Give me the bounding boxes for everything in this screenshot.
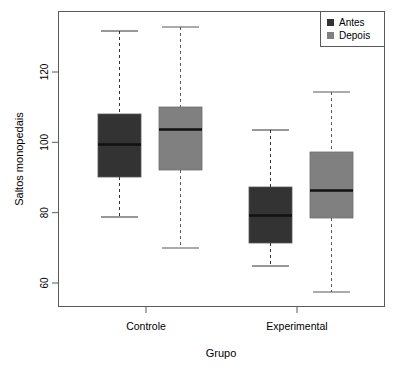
legend-label-antes: Antes (339, 17, 365, 28)
y-tick-label-120: 120 (39, 63, 50, 80)
y-axis-title: Saltos monopedais (13, 112, 25, 206)
y-tick-label-100: 100 (39, 134, 50, 151)
x-axis-title: Grupo (206, 347, 237, 359)
chart-legend: Antes Depois (321, 12, 385, 47)
x-tick-label-controle: Controle (126, 320, 166, 332)
boxplot-canvas: 60 80 100 120 Saltos monopedais Controle… (0, 0, 398, 372)
x-tick-label-experimental: Experimental (266, 320, 327, 332)
legend-swatch-depois (327, 32, 334, 39)
y-tick-label-60: 60 (39, 277, 50, 289)
y-tick-label-80: 80 (39, 207, 50, 219)
legend-label-depois: Depois (339, 30, 370, 41)
legend-swatch-antes (327, 19, 334, 26)
boxplot-chart: 60 80 100 120 Saltos monopedais Controle… (0, 0, 398, 372)
box-body (310, 152, 353, 218)
box-body (159, 107, 202, 170)
